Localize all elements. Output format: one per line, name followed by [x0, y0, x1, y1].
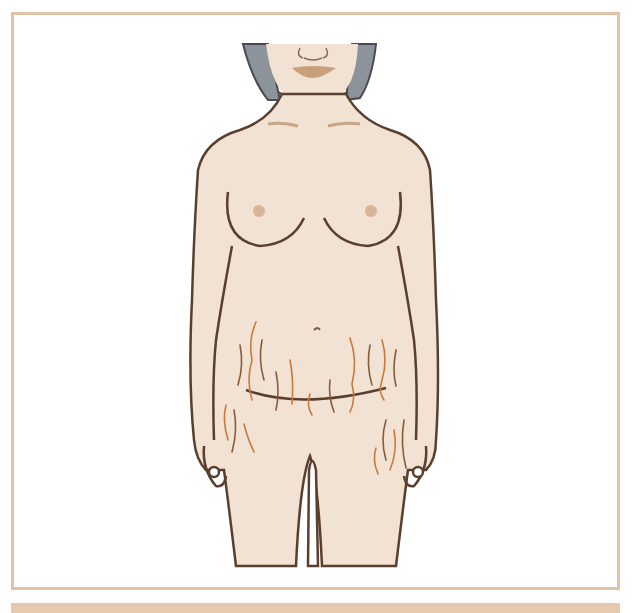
right-areola [365, 205, 377, 217]
leg-gap [308, 461, 318, 566]
left-areola [253, 205, 265, 217]
